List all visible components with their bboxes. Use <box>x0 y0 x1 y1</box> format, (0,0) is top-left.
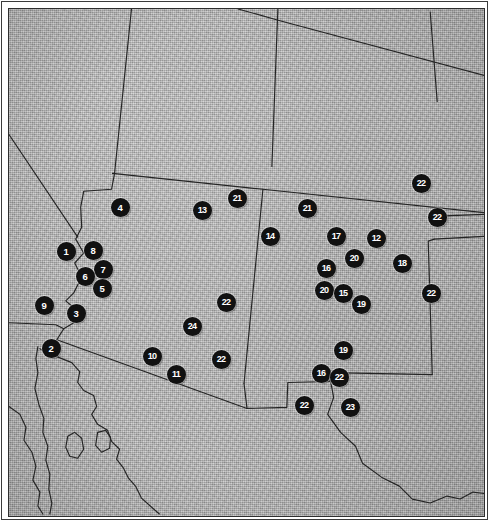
site-marker[interactable]: 16 <box>317 259 336 278</box>
site-marker[interactable]: 20 <box>315 281 334 300</box>
site-marker[interactable]: 1 <box>57 242 76 261</box>
site-marker[interactable]: 11 <box>167 365 186 384</box>
site-marker[interactable]: 22 <box>422 284 441 303</box>
site-marker[interactable]: 22 <box>412 174 431 193</box>
site-marker[interactable]: 23 <box>341 398 360 417</box>
site-marker[interactable]: 22 <box>295 396 314 415</box>
site-marker-layer: 4132121222214171218765162018201519229322… <box>9 9 484 516</box>
site-marker[interactable]: 24 <box>183 317 202 336</box>
map-figure: 4132121222214171218765162018201519229322… <box>0 0 489 521</box>
site-marker[interactable]: 2 <box>42 339 61 358</box>
site-marker[interactable]: 18 <box>393 254 412 273</box>
site-marker[interactable]: 6 <box>76 267 95 286</box>
site-marker[interactable]: 21 <box>298 199 317 218</box>
site-marker[interactable]: 9 <box>35 296 54 315</box>
site-marker[interactable]: 3 <box>67 304 86 323</box>
site-marker[interactable]: 21 <box>228 189 247 208</box>
site-marker[interactable]: 10 <box>143 347 162 366</box>
map-plate: 4132121222214171218765162018201519229322… <box>8 8 485 517</box>
site-marker[interactable]: 13 <box>193 201 212 220</box>
site-marker[interactable]: 22 <box>217 293 236 312</box>
site-marker[interactable]: 17 <box>327 227 346 246</box>
site-marker[interactable]: 22 <box>330 368 349 387</box>
site-marker[interactable]: 19 <box>352 295 371 314</box>
site-marker[interactable]: 16 <box>312 364 331 383</box>
map-outer-border: 4132121222214171218765162018201519229322… <box>1 1 488 520</box>
site-marker[interactable]: 7 <box>94 260 113 279</box>
site-marker[interactable]: 15 <box>334 284 353 303</box>
site-marker[interactable]: 12 <box>367 229 386 248</box>
site-marker[interactable]: 19 <box>334 341 353 360</box>
site-marker[interactable]: 22 <box>428 208 447 227</box>
site-marker[interactable]: 8 <box>84 241 103 260</box>
site-marker[interactable]: 14 <box>261 227 280 246</box>
site-marker[interactable]: 4 <box>111 198 130 217</box>
site-marker[interactable]: 5 <box>93 279 112 298</box>
site-marker[interactable]: 20 <box>345 249 364 268</box>
site-marker[interactable]: 22 <box>212 350 231 369</box>
